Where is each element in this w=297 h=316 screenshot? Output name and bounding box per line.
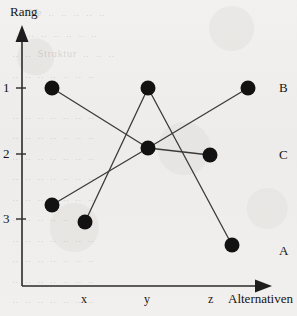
data-point (225, 238, 240, 253)
y-axis (16, 25, 29, 286)
y-tick-label-1: 1 (3, 80, 10, 96)
series-label-a: A (279, 243, 288, 259)
y-tick-label-3: 3 (3, 211, 10, 227)
y-axis-title: Rang (10, 4, 37, 20)
series-label-c: C (279, 147, 288, 163)
data-point (45, 198, 60, 213)
x-tick-label-x: x (81, 292, 87, 307)
data-point (78, 215, 93, 230)
y-axis-arrowhead (16, 25, 29, 42)
data-point (241, 81, 256, 96)
series-line-b (52, 88, 248, 148)
series-line-c (52, 148, 210, 205)
x-axis-title: Alternativen (228, 291, 293, 307)
data-point (45, 81, 60, 96)
data-point (141, 141, 156, 156)
y-tick-label-2: 2 (3, 146, 10, 162)
x-tick-label-z: z (208, 292, 213, 307)
data-point-markers (45, 81, 256, 253)
x-tick-label-y: y (144, 292, 150, 307)
rank-chart-plot (0, 0, 297, 316)
data-point (203, 148, 218, 163)
series-label-b: B (279, 80, 288, 96)
data-point (141, 81, 156, 96)
figure-container: .. Die .. .. .. .. .. .. .. .. .. .. .. … (0, 0, 297, 316)
